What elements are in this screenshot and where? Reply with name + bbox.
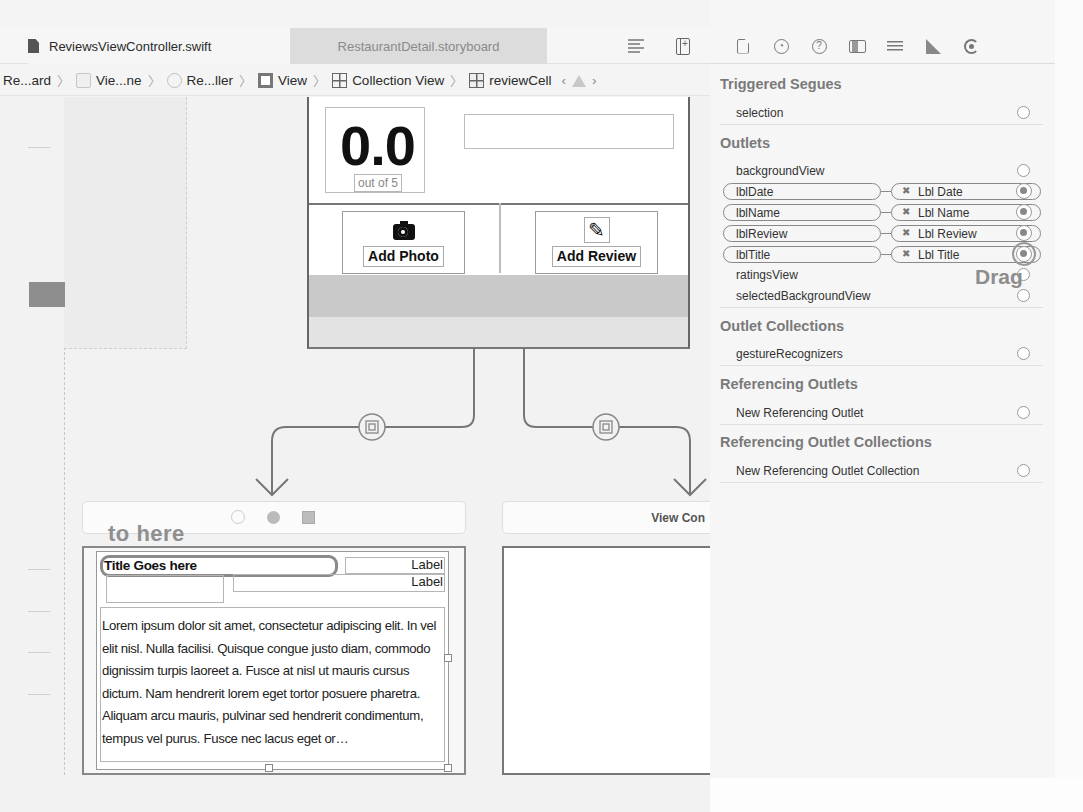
size-inspector-button[interactable] [924, 37, 942, 55]
ruler-tick [28, 611, 50, 612]
collection-view-footer [309, 317, 688, 347]
crumb-label: Vie...ne [96, 73, 142, 88]
restaurant-name-placeholder[interactable] [464, 114, 674, 149]
exit-icon[interactable] [302, 511, 315, 524]
breadcrumb-view-controller[interactable]: Re...ller [167, 73, 234, 88]
chevron-right-icon: 〉 [450, 71, 463, 90]
swift-file-icon [28, 39, 39, 53]
ruler-tick [28, 652, 50, 653]
date-label[interactable]: Label [345, 557, 445, 574]
drag-source-highlight[interactable] [1012, 242, 1036, 266]
chevron-right-icon: 〉 [57, 71, 70, 90]
first-responder-icon[interactable] [267, 511, 280, 524]
outlet-row-lbl-date: lblDate ✖Lbl Date [710, 182, 1055, 202]
breadcrumb-collection-view[interactable]: Collection View [332, 73, 444, 88]
remove-connection-icon[interactable]: ✖ [902, 185, 910, 196]
rating-value-label[interactable]: 0.0 [340, 116, 415, 176]
identity-inspector-button[interactable] [848, 37, 866, 55]
add-editor-button[interactable] [672, 35, 694, 57]
connection-circle-icon[interactable] [1017, 406, 1030, 419]
breadcrumb-review-cell[interactable]: reviewCell [469, 73, 551, 88]
ruler-tick [28, 569, 50, 570]
resize-handle[interactable] [444, 764, 452, 772]
connection-link [881, 233, 891, 234]
previous-issue-button[interactable]: ‹ [561, 73, 566, 88]
review-text-label[interactable]: Lorem ipsum dolor sit amet, consectetur … [100, 607, 445, 762]
connection-circle-icon[interactable] [1017, 106, 1030, 119]
tab-label: ReviewsViewController.swift [49, 39, 211, 54]
remove-connection-icon[interactable]: ✖ [902, 206, 910, 217]
section-outlet-collections: Outlet Collections [720, 318, 844, 334]
connection-name: gestureRecognizers [736, 347, 843, 361]
rating-view[interactable]: 0.0 out of 5 [325, 107, 425, 193]
breadcrumb-scene[interactable]: Vie...ne [76, 73, 142, 88]
outlet-row-selected-background-view: selectedBackgroundView [710, 286, 1055, 306]
section-triggered-segues: Triggered Segues [720, 76, 842, 92]
connection-target: Lbl Date [918, 185, 963, 199]
crumb-label: Collection View [352, 73, 444, 88]
history-inspector-button[interactable]: ◔ [772, 37, 790, 55]
view-icon [258, 73, 273, 88]
connection-row-selection: selection [710, 103, 1055, 123]
add-photo-button[interactable]: Add Photo [342, 211, 465, 274]
tab-reviews-view-controller[interactable]: ReviewsViewController.swift [28, 28, 290, 64]
out-of-label[interactable]: out of 5 [354, 174, 402, 192]
section-referencing-outlets: Referencing Outlets [720, 376, 858, 392]
crumb-label: reviewCell [489, 73, 551, 88]
connection-name: lblDate [736, 185, 773, 199]
segue-icon [359, 414, 619, 440]
inspector-edge [1055, 0, 1083, 812]
file-inspector-button[interactable] [734, 37, 752, 55]
connection-name: selection [736, 106, 783, 120]
connected-circle-icon[interactable] [1016, 183, 1032, 199]
connection-circle-icon[interactable] [1017, 164, 1030, 177]
connection-circle-icon[interactable] [1017, 464, 1030, 477]
collection-view-area[interactable] [309, 275, 688, 317]
warning-icon[interactable] [572, 75, 586, 87]
quick-help-button[interactable]: ? [810, 37, 828, 55]
connection-row-gesture-recognizers: gestureRecognizers [710, 344, 1055, 364]
resize-handle[interactable] [444, 654, 452, 662]
outlet-pill: lblName [723, 204, 881, 221]
outlet-pill: lblDate [723, 183, 881, 200]
collection-cell-icon [469, 73, 484, 88]
connections-inspector: ◔ ? Triggered Segues selection Outlets b… [710, 0, 1083, 812]
connection-name: ratingsView [736, 268, 798, 282]
resize-handle[interactable] [265, 764, 273, 772]
remove-connection-icon[interactable]: ✖ [902, 227, 910, 238]
editor-options-button[interactable] [625, 35, 647, 57]
add-review-label: Add Review [552, 246, 641, 267]
storyboard-canvas[interactable]: 0.0 out of 5 Add Photo ✎ Add Review [0, 97, 710, 812]
view-controller-scene-dock[interactable]: View Con [502, 501, 710, 534]
view-controller-icon[interactable] [231, 510, 245, 524]
outlet-row-lbl-title: lblTitle ✖Lbl Title [710, 245, 1055, 265]
chevron-right-icon: 〉 [239, 71, 252, 90]
size-inspector-icon [926, 39, 941, 54]
connections-inspector-button[interactable] [962, 37, 980, 55]
review-cell[interactable]: Title Goes here Label Label Lorem ipsum … [82, 546, 466, 775]
file-inspector-icon [737, 39, 749, 54]
connection-circle-icon[interactable] [1017, 289, 1030, 302]
ratings-view-placeholder[interactable] [106, 575, 224, 603]
remove-connection-icon[interactable]: ✖ [902, 248, 910, 259]
connected-circle-icon[interactable] [1016, 204, 1032, 220]
breadcrumb-view[interactable]: View [258, 73, 307, 88]
review-cell-content-view[interactable]: Title Goes here Label Label Lorem ipsum … [96, 551, 449, 770]
name-label[interactable]: Label [233, 574, 445, 592]
attributes-inspector-button[interactable] [886, 37, 904, 55]
next-issue-button[interactable]: › [592, 73, 597, 88]
scene-title: View Con [651, 511, 705, 525]
tab-restaurant-detail-storyboard[interactable]: RestaurantDetail.storyboard [290, 28, 547, 64]
add-review-button[interactable]: ✎ Add Review [535, 211, 658, 274]
connection-link [881, 254, 891, 255]
editor-tab-bar: ReviewsViewController.swift RestaurantDe… [0, 28, 710, 64]
identity-inspector-icon [849, 40, 866, 53]
connection-circle-icon[interactable] [1017, 347, 1030, 360]
connected-circle-icon[interactable] [1016, 225, 1032, 241]
breadcrumb-storyboard[interactable]: Re...ard [3, 73, 51, 88]
view-controller-scene[interactable] [502, 546, 710, 775]
outlet-row-lbl-review: lblReview ✖Lbl Review [710, 224, 1055, 244]
scene-placeholder [64, 97, 187, 349]
restaurant-detail-scene[interactable]: 0.0 out of 5 Add Photo ✎ Add Review [307, 97, 690, 349]
section-referencing-outlet-collections: Referencing Outlet Collections [720, 434, 932, 450]
